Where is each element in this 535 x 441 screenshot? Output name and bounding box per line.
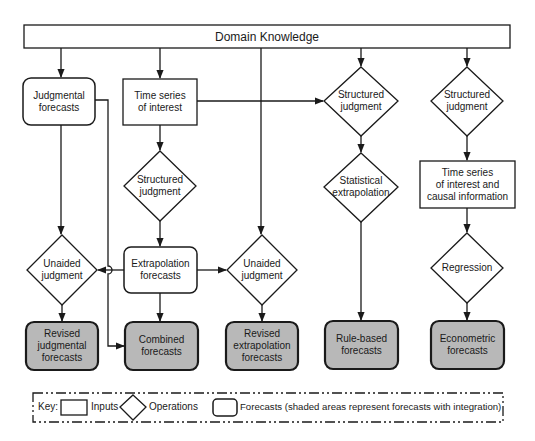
- unaided-judgment-left-label: Unaided judgment: [27, 250, 97, 290]
- rule-based-line2: forecasts: [341, 345, 382, 357]
- structured-judgment-c4-label: Structured judgment: [324, 81, 398, 121]
- time-series-causal-label: Time series of interest and causal infor…: [420, 161, 515, 208]
- statistical-extrapolation-label: Statistical extrapolation: [324, 167, 398, 207]
- unaided-judgment-left-line2: judgment: [41, 270, 82, 282]
- revised-extrapolation-line3: forecasts: [242, 352, 283, 364]
- rule-based-label: Rule-based forecasts: [325, 321, 398, 369]
- key-forecast-symbol-icon: [213, 399, 237, 416]
- econometric-line1: Econometric: [440, 333, 496, 345]
- judgmental-forecasts-label: Judgmental forecasts: [23, 78, 95, 125]
- statistical-extrapolation-line1: Statistical: [340, 175, 383, 187]
- revised-extrapolation-line2: extrapolation: [233, 340, 290, 352]
- revised-judgmental-line1: Revised: [44, 328, 80, 340]
- judgmental-forecasts-line2: forecasts: [39, 102, 80, 114]
- structured-judgment-c5-label: Structured judgment: [431, 81, 503, 121]
- time-series-interest-label: Time series of interest: [123, 79, 197, 125]
- rule-based-line1: Rule-based: [336, 333, 387, 345]
- time-series-causal-line3: causal information: [427, 191, 508, 203]
- time-series-causal-line2: of interest and: [436, 179, 499, 191]
- combined-forecasts-label: Combined forecasts: [125, 322, 198, 370]
- time-series-interest-line2: of interest: [138, 102, 182, 114]
- regression-label: Regression: [431, 258, 503, 278]
- diagram-canvas: [0, 0, 535, 441]
- judgmental-forecasts-line1: Judgmental: [33, 90, 85, 102]
- key-operation-symbol-icon: [120, 395, 146, 420]
- structured-judgment-c5-line2: judgment: [446, 101, 487, 113]
- combined-forecasts-line2: forecasts: [141, 346, 182, 358]
- time-series-causal-line1: Time series: [442, 167, 493, 179]
- structured-judgment-mid-line1: Structured: [137, 174, 183, 186]
- key-operations-label: Operations: [149, 401, 198, 413]
- unaided-judgment-mid-line2: judgment: [241, 270, 282, 282]
- revised-judgmental-line3: forecasts: [42, 352, 83, 364]
- econometric-line2: forecasts: [447, 345, 488, 357]
- unaided-judgment-left-line1: Unaided: [43, 258, 80, 270]
- structured-judgment-c4-line1: Structured: [338, 89, 384, 101]
- structured-judgment-mid-line2: judgment: [139, 186, 180, 198]
- combined-forecasts-line1: Combined: [139, 334, 185, 346]
- key-forecasts-label: Forecasts (shaded areas represent foreca…: [240, 401, 501, 413]
- domain-knowledge-label: Domain Knowledge: [24, 25, 510, 48]
- extrapolation-forecasts-line1: Extrapolation: [131, 258, 189, 270]
- key-input-symbol-icon: [61, 400, 87, 415]
- structured-judgment-c4-line2: judgment: [340, 101, 381, 113]
- key-inputs-label: Inputs: [91, 401, 118, 413]
- unaided-judgment-mid-line1: Unaided: [243, 258, 280, 270]
- unaided-judgment-mid-label: Unaided judgment: [227, 250, 297, 290]
- econometric-label: Econometric forecasts: [431, 321, 504, 369]
- statistical-extrapolation-line2: extrapolation: [332, 187, 389, 199]
- revised-judgmental-label: Revised judgmental forecasts: [26, 322, 98, 370]
- revised-judgmental-line2: judgmental: [38, 340, 87, 352]
- revised-extrapolation-label: Revised extrapolation forecasts: [226, 322, 298, 370]
- revised-extrapolation-line1: Revised: [244, 328, 280, 340]
- time-series-interest-line1: Time series: [134, 90, 185, 102]
- extrapolation-forecasts-label: Extrapolation forecasts: [124, 247, 197, 293]
- key-prefix-label: Key:: [38, 401, 58, 413]
- structured-judgment-c5-line1: Structured: [444, 89, 490, 101]
- extrapolation-forecasts-line2: forecasts: [140, 270, 181, 282]
- structured-judgment-mid-label: Structured judgment: [124, 166, 196, 206]
